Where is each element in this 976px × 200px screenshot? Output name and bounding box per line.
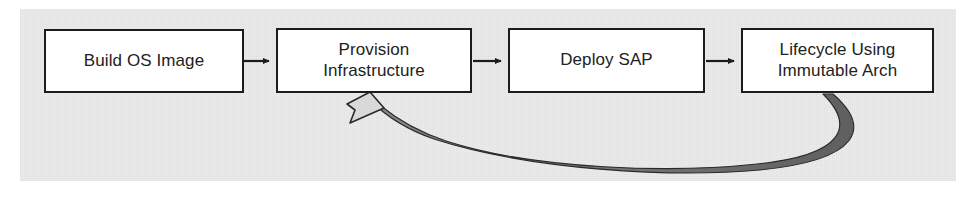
node-provision-infrastructure-label: Provision Infrastructure [317, 40, 431, 80]
node-lifecycle-using-immutable-arch[interactable]: Lifecycle Using Immutable Arch [741, 28, 934, 93]
node-build-os-image[interactable]: Build OS Image [44, 29, 244, 93]
node-build-os-image-label: Build OS Image [78, 51, 210, 71]
node-deploy-sap[interactable]: Deploy SAP [508, 28, 705, 93]
flowchart-diagram: Build OS Image Provision Infrastructure … [0, 0, 976, 200]
node-lifecycle-using-immutable-arch-label: Lifecycle Using Immutable Arch [772, 40, 904, 80]
node-deploy-sap-label: Deploy SAP [554, 50, 659, 70]
node-provision-infrastructure[interactable]: Provision Infrastructure [276, 28, 472, 93]
connector-lifecycle-to-provision-feedback [347, 92, 854, 173]
